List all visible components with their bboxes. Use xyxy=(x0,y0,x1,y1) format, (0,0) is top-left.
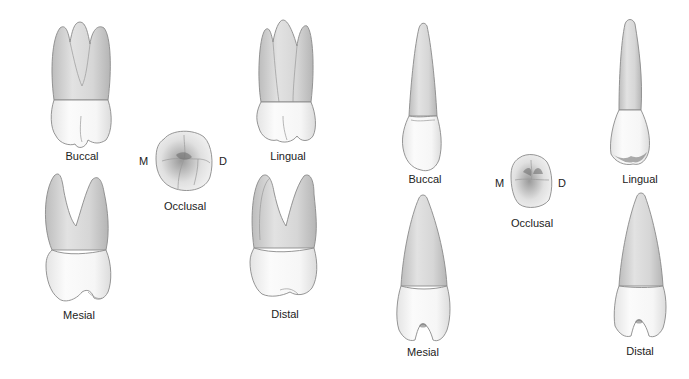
single-occlusal-label: Occlusal xyxy=(511,217,553,229)
molar-panel: Buccal Lingual M D Occlusal Mesial xyxy=(0,0,345,379)
single-buccal-label: Buccal xyxy=(408,173,441,185)
molar-mesial-view xyxy=(40,170,120,306)
molar-lingual-view xyxy=(253,18,323,148)
single-mesial-icon xyxy=(393,192,455,344)
single-mesial-label: Mesial xyxy=(407,346,439,358)
single-lingual-view xyxy=(605,18,655,168)
molar-distal-icon xyxy=(246,170,326,302)
single-root-panel: Buccal Lingual M D Occlusal Mesial xyxy=(345,0,689,379)
molar-distal-marker: D xyxy=(219,155,227,167)
molar-occlusal-icon xyxy=(154,129,214,193)
molar-buccal-view xyxy=(48,20,118,150)
molar-distal-view xyxy=(246,170,326,302)
molar-distal-label: Distal xyxy=(271,308,299,320)
molar-occlusal-label: Occlusal xyxy=(164,200,206,212)
molar-buccal-label: Buccal xyxy=(65,150,98,162)
single-occlusal-view xyxy=(509,152,555,210)
single-distal-label: Distal xyxy=(626,345,654,357)
molar-occlusal-view xyxy=(154,129,214,193)
single-lingual-label: Lingual xyxy=(622,173,657,185)
single-mesial-view xyxy=(393,192,455,344)
molar-buccal-icon xyxy=(48,20,118,150)
single-mesial-marker: M xyxy=(495,177,504,189)
single-distal-icon xyxy=(609,190,671,340)
molar-mesial-marker: M xyxy=(139,155,148,167)
molar-mesial-label: Mesial xyxy=(63,309,95,321)
single-buccal-view xyxy=(397,20,447,172)
single-buccal-icon xyxy=(397,20,447,172)
molar-lingual-label: Lingual xyxy=(270,150,305,162)
single-distal-marker: D xyxy=(558,177,566,189)
molar-lingual-icon xyxy=(253,18,323,148)
single-occlusal-icon xyxy=(509,152,555,210)
single-lingual-icon xyxy=(605,18,655,168)
single-distal-view xyxy=(609,190,671,340)
molar-mesial-icon xyxy=(40,170,120,306)
